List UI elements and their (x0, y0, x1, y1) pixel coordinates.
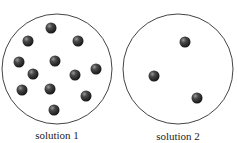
solute-particle (91, 64, 102, 75)
solute-particle (70, 70, 81, 81)
solute-particle (45, 84, 56, 95)
solute-particle (192, 93, 203, 104)
solute-particle (73, 36, 84, 47)
solute-particle (180, 37, 191, 48)
solute-particle (49, 105, 60, 116)
solute-particle (46, 23, 57, 34)
solute-particle (28, 69, 39, 80)
solution-2-label: solution 2 (156, 131, 200, 142)
solute-particle (14, 57, 25, 68)
solute-particle (149, 71, 160, 82)
solution-1-label: solution 1 (35, 130, 79, 141)
solute-particle (50, 56, 61, 67)
solutions-diagram (0, 0, 237, 143)
solute-particle (17, 85, 28, 96)
solution-boundary-circle (123, 14, 233, 124)
solute-particle (23, 36, 34, 47)
solution-2-container (123, 14, 233, 124)
solution-1-container (2, 14, 112, 124)
solute-particle (81, 91, 92, 102)
